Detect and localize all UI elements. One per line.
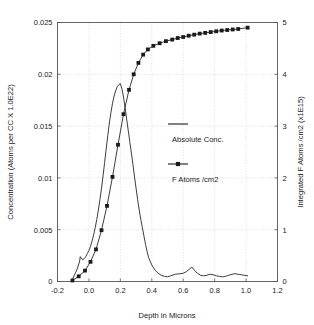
legend-item-1: Absolute Conc. (168, 124, 224, 144)
y-right-tick-label: 0 (283, 277, 287, 286)
data-point-marker (187, 34, 191, 38)
y-axis-left-title: Concentration (Atoms per CC X 1.0E22) (6, 84, 15, 220)
legend-label: F Atoms /cm2 (172, 175, 218, 184)
series-line-f-atoms-cm2 (72, 28, 247, 281)
y-left-tick-label: 0.02 (38, 70, 53, 79)
x-tick-label: 1.0 (241, 286, 251, 295)
y-axis-right-title: Integrated F Atoms /cm2 (x1E15) (296, 96, 305, 208)
data-point-marker (236, 27, 240, 31)
y-left-tick-label: 0.01 (38, 174, 53, 183)
chart-figure: -0.20.00.20.40.60.81.01.2 00.0050.010.01… (0, 0, 314, 325)
data-point-marker (127, 88, 131, 92)
y-left-tick-label: 0.015 (34, 122, 53, 131)
y-left-tick-label: 0.005 (34, 226, 53, 235)
data-point-marker (181, 35, 185, 39)
data-point-marker (151, 44, 155, 48)
chart-plot-svg: -0.20.00.20.40.60.81.01.2 00.0050.010.01… (0, 0, 314, 325)
data-point-marker (89, 260, 93, 264)
data-point-marker (170, 38, 174, 42)
y-right-tick-label: 3 (283, 122, 287, 131)
data-point-marker (192, 33, 196, 37)
data-point-marker (231, 28, 235, 32)
gridlines-layer (58, 23, 278, 282)
x-tick-label: 0.6 (178, 286, 188, 295)
x-axis-tick-labels: -0.20.00.20.40.60.81.01.2 (51, 286, 283, 295)
legend-label: Absolute Conc. (172, 135, 224, 144)
data-point-marker (176, 36, 180, 40)
legend-item-2: F Atoms /cm2 (168, 162, 218, 184)
data-point-marker (164, 39, 168, 43)
x-tick-label: 0.8 (209, 286, 219, 295)
data-point-marker (203, 31, 207, 35)
tickmarks-layer (58, 23, 278, 282)
y-axis-left-tick-labels: 00.0050.010.0150.020.025 (34, 18, 53, 286)
plot-frame (58, 23, 278, 282)
data-point-marker (246, 26, 250, 30)
series-line-absolute-conc (72, 84, 247, 280)
data-point-marker (116, 143, 120, 147)
data-point-marker (214, 29, 218, 33)
y-right-tick-label: 5 (283, 18, 287, 27)
data-point-marker (111, 175, 115, 179)
x-tick-label: 0.4 (147, 286, 157, 295)
data-point-marker (198, 32, 202, 36)
data-point-marker (225, 28, 229, 32)
data-point-marker (137, 61, 141, 65)
data-point-marker (94, 247, 98, 251)
legend: Absolute Conc.F Atoms /cm2 (168, 124, 224, 184)
data-point-marker (100, 228, 104, 232)
data-series-layer (71, 26, 250, 283)
data-point-marker (71, 279, 75, 283)
legend-key-square-marker (176, 162, 180, 166)
x-tick-label: -0.2 (51, 286, 64, 295)
plot-frame-rect (58, 23, 278, 282)
data-point-marker (83, 269, 87, 273)
y-right-tick-label: 2 (283, 174, 287, 183)
y-right-tick-label: 1 (283, 226, 287, 235)
x-axis-title: Depth in Microns (139, 311, 196, 320)
x-tick-label: 1.2 (272, 286, 282, 295)
data-point-marker (220, 29, 224, 33)
data-point-marker (141, 53, 145, 57)
data-point-marker (146, 48, 150, 52)
data-point-marker (77, 274, 81, 278)
data-point-marker (132, 72, 136, 76)
y-right-tick-label: 4 (283, 70, 287, 79)
data-point-marker (122, 112, 126, 116)
data-point-marker (209, 30, 213, 34)
x-tick-label: 0.2 (115, 286, 125, 295)
y-axis-right-tick-labels: 012345 (283, 18, 287, 286)
data-point-marker (158, 41, 162, 45)
data-point-marker (105, 204, 109, 208)
y-left-tick-label: 0.025 (34, 18, 53, 27)
x-tick-label: 0.0 (84, 286, 94, 295)
y-left-tick-label: 0 (48, 277, 52, 286)
